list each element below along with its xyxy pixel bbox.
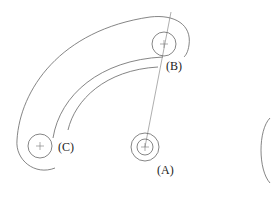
pivot-c: [28, 134, 52, 158]
pivot-a: [131, 133, 159, 161]
outer-arc: [17, 17, 189, 171]
slot-arc-inner: [68, 67, 158, 130]
label-b: (B): [166, 59, 182, 73]
label-a: (A): [157, 163, 174, 177]
partial-circle-right: [261, 118, 270, 183]
label-c: (C): [58, 140, 74, 154]
pivot-b: [152, 32, 176, 56]
mechanism-diagram: (B) (A) (C): [0, 0, 273, 200]
